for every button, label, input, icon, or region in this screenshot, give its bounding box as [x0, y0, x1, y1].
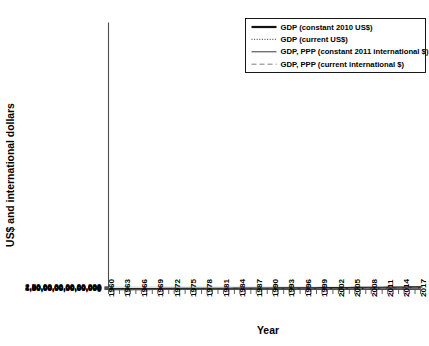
y-axis-title: US$ and international dollars: [5, 103, 16, 247]
y-tick-label: 2,50,00,00,00,00,000: [25, 282, 102, 291]
y-axis-ticks: 050,00,00,00,00,0001,00,00,00,00,00,0001…: [25, 282, 109, 294]
chart-canvas: 050,00,00,00,00,0001,00,00,00,00,00,0001…: [0, 0, 429, 346]
x-tick-label: 1978: [205, 278, 214, 297]
x-tick-label: 1987: [255, 278, 264, 297]
legend-label-2: GDP, PPP (constant 2011 international $): [281, 47, 429, 56]
x-tick-label: 1975: [189, 278, 198, 297]
x-tick-label: 1960: [107, 278, 116, 297]
x-tick-label: 2014: [402, 278, 411, 297]
x-tick-label: 2011: [386, 279, 395, 297]
x-tick-label: 2005: [353, 278, 362, 297]
legend-label-3: GDP, PPP (current international $): [281, 60, 405, 69]
legend-label-0: GDP (constant 2010 US$): [281, 23, 374, 32]
x-tick-label: 1969: [156, 278, 165, 297]
x-tick-label: 1990: [271, 278, 280, 297]
x-tick-label: 1963: [123, 278, 132, 297]
x-tick-label: 2017: [419, 278, 428, 297]
x-axis-title: Year: [257, 325, 279, 336]
x-tick-label: 1984: [238, 278, 247, 297]
gdp-line-chart: 050,00,00,00,00,0001,00,00,00,00,00,0001…: [0, 0, 429, 346]
x-tick-label: 1966: [140, 278, 149, 297]
legend-label-1: GDP (current US$): [281, 35, 349, 44]
x-tick-label: 1972: [173, 278, 182, 297]
x-tick-label: 1999: [320, 278, 329, 297]
x-tick-label: 1993: [287, 278, 296, 297]
x-tick-label: 1981: [222, 278, 231, 297]
chart-legend: GDP (constant 2010 US$)GDP (current US$)…: [246, 19, 429, 73]
x-tick-label: 2002: [337, 278, 346, 297]
x-tick-label: 1996: [304, 278, 313, 297]
x-tick-label: 2008: [370, 278, 379, 297]
